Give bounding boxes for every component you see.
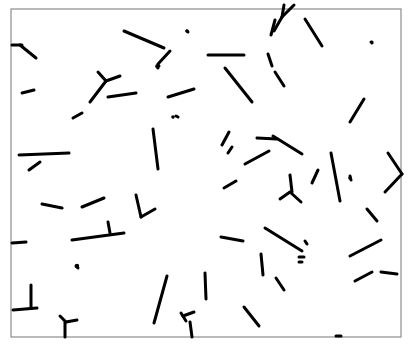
line-segment xyxy=(98,72,106,81)
line-segment xyxy=(141,209,155,217)
line-segment xyxy=(268,54,272,66)
segment-field xyxy=(0,0,408,346)
line-segment xyxy=(388,153,402,174)
line-segment xyxy=(176,116,178,117)
line-segment xyxy=(273,136,302,154)
line-segment xyxy=(305,241,307,244)
line-segment xyxy=(42,204,62,208)
dot-marker xyxy=(75,264,79,268)
line-segment xyxy=(12,242,26,243)
line-segment xyxy=(228,147,232,153)
line-segment xyxy=(183,312,194,316)
line-segment xyxy=(312,170,318,183)
line-segment xyxy=(222,132,229,145)
line-segment xyxy=(205,273,206,299)
line-segment xyxy=(290,175,292,192)
line-segment xyxy=(108,93,136,97)
line-segment xyxy=(381,272,397,274)
dot-marker xyxy=(171,115,175,119)
dot-marker xyxy=(348,176,352,180)
line-segment xyxy=(19,153,69,155)
line-segment xyxy=(305,19,322,46)
line-segment xyxy=(350,240,381,256)
line-segment xyxy=(106,76,120,81)
line-segment xyxy=(225,68,252,102)
line-segment xyxy=(190,322,192,337)
line-segment xyxy=(168,89,194,97)
line-segment xyxy=(20,45,36,58)
line-segment xyxy=(290,192,301,202)
line-segment xyxy=(350,99,364,122)
line-segment xyxy=(82,198,104,207)
line-segment xyxy=(355,272,372,281)
dot-marker xyxy=(155,64,159,68)
line-segment xyxy=(331,153,340,201)
line-segment xyxy=(90,81,106,102)
line-segment xyxy=(265,228,302,251)
line-segment xyxy=(153,129,158,169)
line-segment xyxy=(13,308,37,310)
line-segment xyxy=(244,307,259,326)
line-segment xyxy=(124,31,164,48)
line-segment xyxy=(276,278,284,290)
line-segment xyxy=(29,162,40,170)
line-segment xyxy=(66,320,77,322)
line-segment xyxy=(108,222,110,233)
line-segment xyxy=(72,233,124,240)
line-segment xyxy=(245,151,269,164)
line-segment xyxy=(367,209,377,221)
line-segment xyxy=(224,181,236,188)
line-segment xyxy=(261,254,263,275)
line-segment xyxy=(136,195,141,217)
line-segment xyxy=(22,90,34,93)
line-segment xyxy=(73,113,82,118)
line-segment xyxy=(280,192,290,199)
dot-marker xyxy=(371,41,374,44)
dot-marker xyxy=(185,29,189,33)
line-segment xyxy=(221,237,243,241)
line-segments xyxy=(12,5,402,337)
line-segment xyxy=(275,72,284,86)
line-segment xyxy=(154,276,167,323)
line-segment xyxy=(158,51,170,64)
line-segment xyxy=(385,174,402,192)
